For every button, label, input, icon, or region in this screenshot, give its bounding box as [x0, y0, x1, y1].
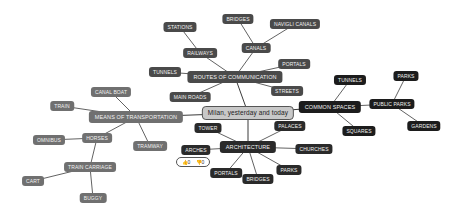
central-topic[interactable]: Milan, yesterday and today	[202, 106, 294, 120]
node-common-gardens[interactable]: GARDENS	[407, 121, 440, 131]
node-arch-palaces[interactable]: PALACES	[274, 121, 305, 131]
branch-common[interactable]: COMMON SPACES	[299, 101, 361, 113]
node-transport-traincarriage[interactable]: TRAIN CARRIAGE	[64, 162, 116, 172]
node-transport-buggy[interactable]: BUGGY	[80, 193, 107, 203]
node-routes-mainroads[interactable]: MAIN ROADS	[170, 92, 211, 102]
node-routes-bridges[interactable]: BRIDGES	[222, 14, 253, 24]
branch-routes[interactable]: ROUTES OF COMMUNICATION	[187, 71, 282, 83]
node-routes-tunnels[interactable]: TUNNELS	[149, 67, 181, 77]
node-transport-canalboat[interactable]: CANAL BOAT	[91, 87, 131, 97]
node-common-squares[interactable]: SQUARES	[342, 126, 375, 136]
node-routes-canals[interactable]: CANALS	[242, 43, 271, 53]
thumbs-up-button[interactable]: 👍0	[182, 159, 191, 165]
node-transport-tramway[interactable]: TRAMWAY	[133, 141, 167, 151]
node-transport-omnibus[interactable]: OMNIBUS	[33, 135, 65, 145]
node-routes-portals[interactable]: PORTALS	[278, 59, 310, 69]
node-routes-streets[interactable]: STREETS	[271, 86, 303, 96]
node-arch-parks[interactable]: PARKS	[276, 165, 301, 175]
node-common-tunnels[interactable]: TUNNELS	[334, 75, 366, 85]
node-common-publicparks[interactable]: PUBLIC PARKS	[369, 99, 414, 109]
node-arch-churches[interactable]: CHURCHES	[295, 144, 332, 154]
branch-transport[interactable]: MEANS OF TRANSPORTATION	[89, 111, 183, 123]
node-transport-train[interactable]: TRAIN	[50, 101, 74, 111]
branch-arch[interactable]: ARCHITECTURE	[220, 141, 276, 153]
node-arch-bridges[interactable]: BRIDGES	[242, 174, 273, 184]
node-common-parks[interactable]: PARKS	[393, 71, 418, 81]
node-routes-stations[interactable]: STATIONS	[163, 22, 196, 32]
down-count: 0	[202, 159, 205, 165]
node-transport-horses[interactable]: HORSES	[82, 133, 112, 143]
node-arch-arches[interactable]: ARCHES	[181, 145, 210, 155]
node-arch-portals[interactable]: PORTALS	[210, 168, 242, 178]
node-transport-cart[interactable]: CART	[22, 176, 44, 186]
node-arch-tower[interactable]: TOWER	[194, 123, 221, 133]
thumbs-down-button[interactable]: 👎0	[196, 159, 205, 165]
up-count: 0	[188, 159, 191, 165]
node-routes-navigli[interactable]: NAVIGLI CANALS	[270, 19, 320, 29]
node-routes-railways[interactable]: RAILWAYS	[183, 48, 217, 58]
vote-popup: 👍0 👎0	[176, 157, 210, 167]
